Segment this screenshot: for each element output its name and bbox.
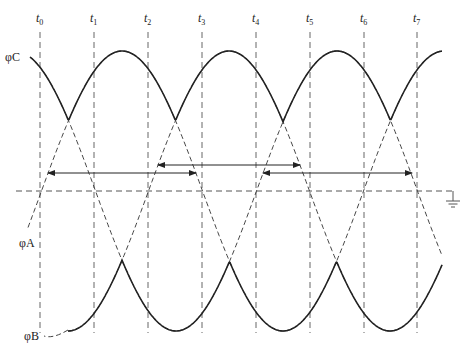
- time-label-5: t5: [306, 11, 313, 27]
- phase-curve-φB: [68, 51, 442, 331]
- time-label-2: t2: [144, 11, 151, 27]
- conduction-arrows: [48, 165, 412, 173]
- phase-label-a: φA: [19, 236, 35, 250]
- time-labels: t0t1t2t3t4t5t6t7: [36, 11, 420, 27]
- waveform-svg: t0t1t2t3t4t5t6t7 φC φA φB: [0, 0, 472, 352]
- ground-icon: [446, 191, 460, 207]
- time-label-0: t0: [36, 11, 43, 27]
- time-marker-lines: [40, 32, 417, 333]
- phase-label-c: φC: [5, 50, 20, 64]
- upper-envelope: [30, 51, 442, 122]
- phase-b-leader: [44, 330, 68, 337]
- lower-envelope: [68, 260, 442, 331]
- phase-label-b: φB: [24, 329, 39, 343]
- three-phase-diagram: t0t1t2t3t4t5t6t7 φC φA φB: [0, 0, 472, 352]
- time-label-1: t1: [90, 11, 97, 27]
- time-label-3: t3: [198, 11, 205, 27]
- time-label-6: t6: [360, 11, 367, 27]
- time-label-7: t7: [413, 11, 420, 27]
- time-label-4: t4: [252, 11, 259, 27]
